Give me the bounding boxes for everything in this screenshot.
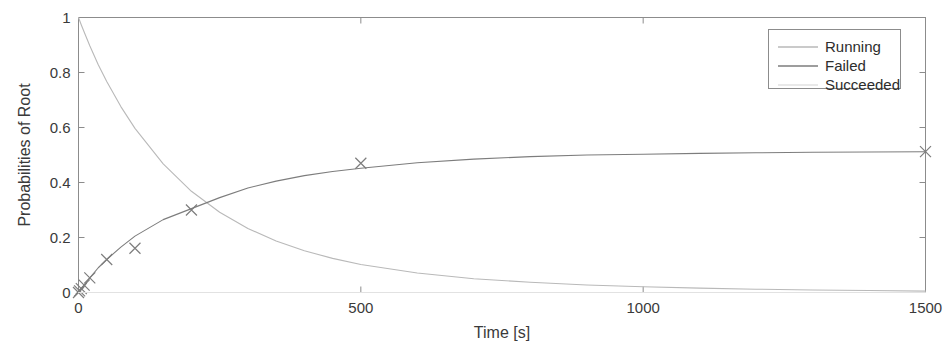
y-tick-label: 0.6: [50, 119, 71, 136]
chart-legend: RunningFailedSucceeded: [769, 30, 901, 94]
x-axis-tick-labels: 050010001500: [74, 299, 942, 316]
probabilities-of-root-line-chart: 050010001500 00.20.40.60.81 Time [s] Pro…: [0, 0, 952, 348]
series-markers: [73, 146, 931, 298]
y-tick-label: 0.8: [50, 64, 71, 81]
series-failed: [73, 146, 931, 298]
y-tick-label: 0.2: [50, 229, 71, 246]
x-tick-label: 1000: [626, 299, 659, 316]
x-tick-label: 500: [348, 299, 373, 316]
legend-label-running: Running: [825, 38, 881, 55]
data-point-marker: [79, 280, 90, 291]
legend-label-failed: Failed: [825, 57, 866, 74]
y-tick-label: 0: [62, 284, 70, 301]
data-point-marker: [355, 158, 366, 169]
data-point-marker: [101, 254, 112, 265]
y-axis-tick-labels: 00.20.40.60.81: [50, 9, 71, 301]
data-point-marker: [84, 272, 95, 283]
x-tick-label: 1500: [909, 299, 942, 316]
x-tick-label: 0: [74, 299, 82, 316]
series-line: [79, 152, 926, 293]
legend-label-succeeded: Succeeded: [825, 76, 900, 93]
chart-figure: 050010001500 00.20.40.60.81 Time [s] Pro…: [0, 0, 952, 348]
y-tick-label: 1: [62, 9, 70, 26]
y-tick-label: 0.4: [50, 174, 71, 191]
data-point-marker: [129, 243, 140, 254]
y-axis-title: Probabilities of Root: [16, 83, 33, 227]
x-axis-title: Time [s]: [474, 324, 530, 341]
